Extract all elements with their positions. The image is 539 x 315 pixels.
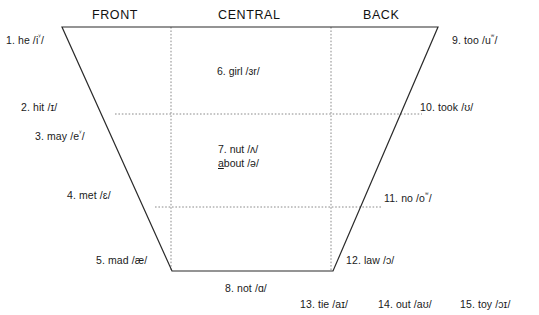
column-header-back: BACK — [363, 8, 399, 22]
vowel-label-14-out: 14. out /aʊ/ — [378, 298, 432, 311]
vowel-label-7-nut: 7. nut /ʌ/ — [218, 142, 258, 156]
slash-1: / — [41, 34, 44, 46]
slash-9: / — [495, 34, 498, 46]
vowel-label-9-too: 9. too /uʷ/ — [452, 31, 498, 47]
vowel-label-10-took: 10. took /ʊ/ — [420, 101, 473, 114]
vowel-label-7-about: about /ə/ — [218, 156, 259, 170]
vowel-trapezoid-svg — [0, 0, 539, 315]
column-header-front: FRONT — [92, 8, 138, 22]
vowel-label-8-not: 8. not /ɑ/ — [225, 282, 267, 295]
vowel-chart-figure: FRONT CENTRAL BACK 1. he /iʸ/ 2. hit /ɪ/… — [0, 0, 539, 315]
vowel-label-3-text: 3. may /e — [35, 130, 79, 142]
slash-3: / — [82, 130, 85, 142]
vowel-label-9-text: 9. too /u — [452, 34, 491, 46]
vowel-label-11-no: 11. no /oʷ/ — [384, 189, 432, 205]
vowel-label-6-girl: 6. girl /ɜr/ — [217, 64, 260, 78]
slash-11: / — [429, 192, 432, 204]
vowel-label-5-mad: 5. mad /æ/ — [96, 254, 147, 267]
vowel-label-2-hit: 2. hit /ɪ/ — [21, 101, 57, 114]
vowel-label-11-text: 11. no /o — [384, 192, 425, 204]
vowel-label-1-he: 1. he /iʸ/ — [6, 31, 44, 47]
vowel-label-4-met: 4. met /ɛ/ — [67, 189, 111, 202]
vowel-label-3-may: 3. may /eʸ/ — [35, 127, 85, 143]
vowel-label-13-tie: 13. tie /aɪ/ — [300, 298, 348, 311]
about-remainder: bout /ə/ — [224, 157, 259, 169]
vowel-label-15-toy: 15. toy /ɔɪ/ — [460, 298, 510, 311]
vowel-label-1-text: 1. he /i — [6, 34, 38, 46]
column-header-central: CENTRAL — [218, 8, 281, 22]
vowel-label-12-law: 12. law /ɔ/ — [346, 254, 394, 267]
